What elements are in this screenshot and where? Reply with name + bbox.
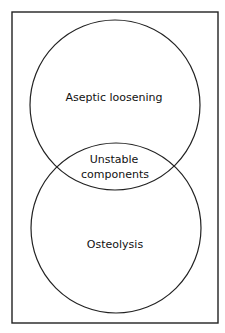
label-intersection-line2: components [81,168,149,181]
label-osteolysis: Osteolysis [87,238,144,251]
label-aseptic-loosening: Aseptic loosening [66,91,163,104]
venn-diagram: Aseptic loosening Unstable components Os… [0,0,225,333]
label-intersection-line1: Unstable [90,153,139,166]
